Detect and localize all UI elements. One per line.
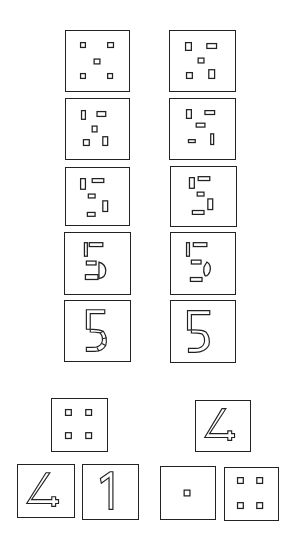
test-left-top-four-squares: four small squares	[51, 398, 108, 452]
panel-left-3: rectangles aligning	[65, 167, 130, 226]
digit-four-outline-icon	[196, 401, 250, 451]
test-right-top-digit-four: 4	[195, 400, 251, 452]
digit-one-outline-icon	[83, 465, 138, 519]
four-squares-icon	[52, 399, 107, 451]
single-square-icon	[161, 467, 215, 519]
scattered-rectangles-icon	[170, 99, 235, 159]
panel-right-1: scattered rectangles	[169, 30, 236, 92]
test-right-four-squares: four small squares	[224, 467, 279, 521]
panel-right-3: rectangles aligning	[170, 166, 237, 227]
panel-left-1: five small squares (dice-like)	[65, 30, 130, 92]
panel-left-5: 5	[64, 300, 131, 362]
partial-five-icon	[171, 233, 235, 294]
scattered-rectangles-icon	[170, 31, 235, 91]
aligning-rectangles-icon	[66, 168, 129, 225]
four-squares-icon	[225, 468, 278, 520]
test-left-digit-one: 1	[82, 464, 139, 520]
scattered-rectangles-icon	[66, 99, 129, 159]
digit-four-outline-icon	[18, 465, 74, 517]
panel-left-4: rectangles nearly forming 5	[64, 232, 131, 295]
partial-five-icon	[65, 233, 130, 294]
panel-right-4: rectangles nearly forming 5	[170, 232, 236, 295]
panel-right-2: scattered rectangles	[169, 98, 236, 160]
aligning-rectangles-icon	[171, 167, 236, 226]
panel-right-5: 5	[170, 300, 236, 363]
digit-five-outline-icon	[171, 301, 235, 362]
scattered-squares-icon	[66, 31, 129, 91]
digit-five-segmented-icon	[65, 301, 130, 361]
panel-left-2: scattered rectangles	[65, 98, 130, 160]
test-left-digit-four: 4	[17, 464, 75, 518]
test-right-single-square: single small square	[160, 466, 216, 520]
